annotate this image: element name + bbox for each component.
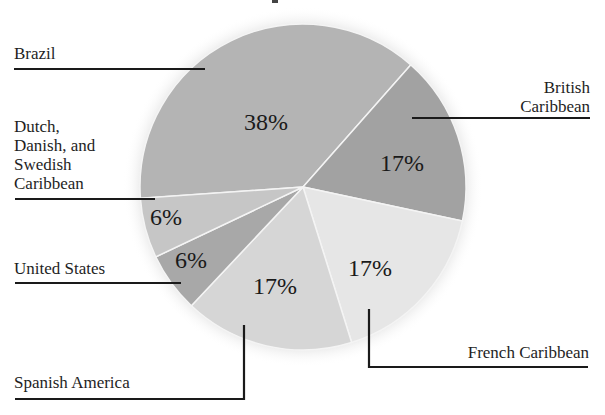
label-dutch-line4: Caribbean	[14, 174, 95, 193]
pct-dutch: 6%	[150, 204, 182, 230]
label-dutch: Dutch, Danish, and Swedish Caribbean	[14, 117, 95, 193]
label-dutch-line2: Danish, and	[14, 136, 95, 155]
label-dutch-line3: Swedish	[14, 155, 95, 174]
label-british-line2: Caribbean	[520, 97, 590, 116]
pct-spanish: 17%	[253, 273, 297, 299]
label-brazil: Brazil	[14, 44, 56, 63]
pct-brazil: 38%	[244, 109, 288, 135]
pct-us: 6%	[175, 247, 207, 273]
label-dutch-line1: Dutch,	[14, 117, 95, 136]
pie-slices	[140, 24, 466, 350]
label-british: British Caribbean	[520, 78, 590, 116]
pct-french: 17%	[348, 255, 392, 281]
pct-british: 17%	[380, 150, 424, 176]
label-spanish-america: Spanish America	[14, 373, 130, 392]
label-british-line1: British	[520, 78, 590, 97]
label-united-states: United States	[14, 259, 105, 278]
label-french-caribbean: French Caribbean	[468, 343, 589, 362]
